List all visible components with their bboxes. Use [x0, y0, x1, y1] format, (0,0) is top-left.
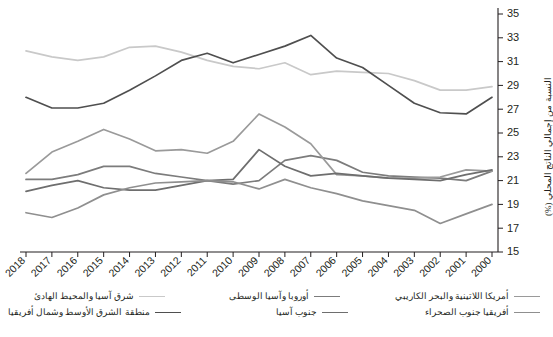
- x-tick-label: 2001: [443, 254, 468, 279]
- y-tick-label: 35: [507, 7, 519, 19]
- x-tick-label: 2013: [132, 254, 157, 279]
- legend-label-sub-saharan-africa: أفريقيا جنوب الصحراء: [425, 307, 509, 317]
- x-tick-label: 2018: [2, 254, 27, 279]
- y-tick-label: 25: [507, 126, 519, 138]
- y-tick-label: 27: [507, 103, 519, 115]
- x-tick-label: 2014: [106, 254, 131, 279]
- x-tick-label: 2010: [210, 254, 235, 279]
- legend-item-mena: منطقة الشرق الأوسط وشمال أفريقيا: [8, 307, 181, 317]
- x-tick-label: 2009: [235, 254, 260, 279]
- line-chart-plot: 1517192123252729313335201820172016201520…: [0, 0, 548, 290]
- legend-swatch-europe-central-asia: [314, 296, 340, 297]
- legend-item-sub-saharan-africa: أفريقيا جنوب الصحراء: [348, 307, 540, 317]
- series-line-0: [26, 46, 492, 90]
- x-tick-label: 2007: [287, 254, 312, 279]
- y-tick-label: 21: [507, 174, 519, 186]
- legend-label-mena: منطقة الشرق الأوسط وشمال أفريقيا: [8, 307, 150, 317]
- legend-label-europe-central-asia: أوروبا وآسيا الوسطى: [229, 291, 309, 301]
- legend-label-latin-america-caribbean: أمريكا اللاتينية والبحر الكاريبي: [395, 291, 509, 301]
- y-tick-label: 29: [507, 79, 519, 91]
- x-tick-label: 2005: [339, 254, 364, 279]
- legend-row-1: أمريكا اللاتينية والبحر الكاريبي أوروبا …: [0, 288, 548, 304]
- x-tick-label: 2003: [391, 254, 416, 279]
- x-tick-label: 2012: [158, 254, 183, 279]
- y-tick-label: 31: [507, 55, 519, 67]
- x-tick-label: 2006: [313, 254, 338, 279]
- x-tick-label: 2011: [184, 254, 209, 279]
- y-tick-label: 33: [507, 31, 519, 43]
- legend-swatch-south-asia: [322, 312, 348, 313]
- x-tick-label: 2002: [417, 254, 442, 279]
- x-tick-label: 2016: [54, 254, 79, 279]
- x-tick-label: 2004: [365, 254, 390, 279]
- legend-swatch-mena: [155, 312, 181, 313]
- legend-row-2: أفريقيا جنوب الصحراء جنوب آسيا منطقة الش…: [0, 304, 548, 320]
- legend-label-east-asia-pacific: شرق آسيا والمحيط الهادئ: [34, 291, 134, 301]
- legend-item-latin-america-caribbean: أمريكا اللاتينية والبحر الكاريبي: [340, 291, 540, 301]
- x-tick-label: 2017: [28, 254, 53, 279]
- series-line-3: [26, 35, 492, 114]
- y-tick-label: 15: [507, 245, 519, 257]
- legend-item-south-asia: جنوب آسيا: [181, 307, 349, 317]
- y-tick-label: 17: [507, 222, 519, 234]
- legend-swatch-latin-america-caribbean: [514, 296, 540, 297]
- x-tick-label: 2000: [468, 254, 493, 279]
- legend-swatch-sub-saharan-africa: [514, 312, 540, 313]
- y-tick-label: 23: [507, 150, 519, 162]
- chart-legend: أمريكا اللاتينية والبحر الكاريبي أوروبا …: [0, 288, 548, 332]
- legend-item-east-asia-pacific: شرق آسيا والمحيط الهادئ: [34, 291, 165, 301]
- series-line-4: [26, 150, 492, 192]
- legend-item-europe-central-asia: أوروبا وآسيا الوسطى: [165, 291, 340, 301]
- y-axis-label-wrapper: النسبة من إجمالي الناتج المحلي (%): [530, 48, 546, 218]
- y-axis-label: النسبة من إجمالي الناتج المحلي (%): [543, 77, 553, 216]
- x-tick-label: 2015: [80, 254, 105, 279]
- x-tick-label: 2008: [261, 254, 286, 279]
- legend-swatch-east-asia-pacific: [139, 296, 165, 297]
- legend-label-south-asia: جنوب آسيا: [276, 307, 317, 317]
- y-tick-label: 19: [507, 198, 519, 210]
